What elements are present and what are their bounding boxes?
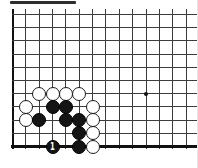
board-bottom-edge-line	[11, 145, 197, 148]
black-stone	[32, 113, 46, 127]
grid-horizontal-line	[12, 27, 198, 28]
white-stone	[86, 113, 100, 127]
black-stone	[59, 100, 73, 114]
board-left-edge-line	[12, 9, 14, 149]
grid-vertical-line	[146, 9, 147, 149]
black-stone	[59, 113, 73, 127]
black-stone	[72, 113, 86, 127]
grid-vertical-line	[132, 9, 133, 149]
white-stone	[86, 140, 100, 154]
grid-vertical-line	[52, 9, 53, 149]
grid-vertical-line	[119, 9, 120, 149]
grid-horizontal-line	[12, 133, 198, 134]
screenshot-root: 1	[0, 0, 197, 168]
black-stone	[72, 126, 86, 140]
grid-horizontal-line	[12, 40, 198, 41]
grid-vertical-line	[39, 9, 40, 149]
white-stone	[59, 87, 73, 101]
grid-horizontal-line	[12, 14, 198, 15]
grid-horizontal-line	[12, 54, 198, 55]
white-stone	[19, 113, 33, 127]
white-stone	[86, 100, 100, 114]
white-stone	[46, 87, 60, 101]
go-board[interactable]: 1	[0, 0, 197, 168]
white-stone	[86, 126, 100, 140]
grid-vertical-line	[25, 9, 26, 149]
black-stone	[46, 100, 60, 114]
grid-horizontal-line	[12, 67, 198, 68]
stone-move-label: 1	[50, 142, 55, 152]
grid-vertical-line	[105, 9, 106, 149]
grid-vertical-line	[172, 9, 173, 149]
white-stone	[32, 87, 46, 101]
grid-vertical-line	[159, 9, 160, 149]
grid-horizontal-line	[12, 106, 198, 107]
marked-black-stone: 1	[46, 140, 60, 154]
grid-horizontal-line	[12, 80, 198, 81]
black-stone	[72, 140, 86, 154]
star-point	[144, 92, 148, 96]
white-stone	[19, 100, 33, 114]
grid-vertical-line	[65, 9, 66, 149]
grid-vertical-line	[186, 9, 187, 149]
white-stone	[72, 87, 86, 101]
